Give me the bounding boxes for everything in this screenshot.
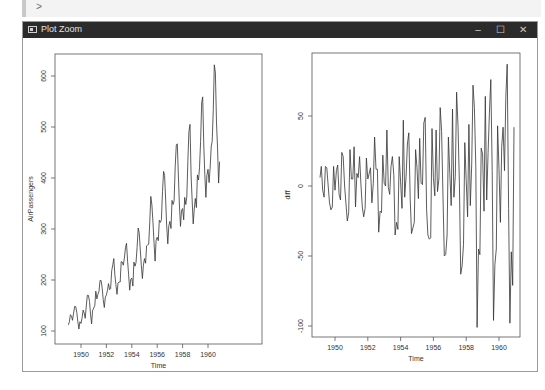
right-y-axis-label: diff <box>284 190 291 199</box>
maximize-button[interactable]: ☐ <box>489 23 511 37</box>
r-console-output: > <box>22 0 541 17</box>
x-tick-label: 1950 <box>327 344 343 351</box>
y-tick-label: 500 <box>40 121 47 133</box>
y-tick-label: 100 <box>40 325 47 337</box>
left-chart: 100200300400500600 195019521954195619581… <box>27 54 262 369</box>
minimize-button[interactable]: – <box>467 23 489 37</box>
y-tick-label: 400 <box>40 172 47 184</box>
x-tick-label: 1950 <box>73 351 89 358</box>
y-tick-label: 300 <box>40 223 47 235</box>
y-tick-label: -100 <box>297 319 304 333</box>
right-x-axis: 195019521954195619581960 <box>327 337 507 351</box>
right-plot-frame <box>312 53 520 337</box>
right-chart: -100-50050 195019521954195619581960 Time… <box>284 53 520 362</box>
left-x-axis: 195019521954195619581960 <box>73 344 216 358</box>
y-tick-label: -50 <box>297 251 304 261</box>
x-tick-label: 1954 <box>124 351 140 358</box>
right-y-axis: -100-50050 <box>297 112 312 333</box>
x-tick-label: 1960 <box>491 344 507 351</box>
right-x-axis-label: Time <box>408 355 423 362</box>
left-y-axis-label: AirPassengers <box>27 176 35 222</box>
x-tick-label: 1958 <box>175 351 191 358</box>
x-tick-label: 1956 <box>149 351 165 358</box>
x-tick-label: 1952 <box>99 351 115 358</box>
window-titlebar[interactable]: Plot Zoom – ☐ ✕ <box>23 22 537 38</box>
left-plot-frame <box>55 54 262 344</box>
left-x-axis-label: Time <box>151 362 166 369</box>
diff-series-line <box>320 64 514 327</box>
x-tick-label: 1952 <box>360 344 376 351</box>
airpassengers-series-line <box>68 65 219 329</box>
left-y-axis: 100200300400500600 <box>40 70 55 337</box>
plot-window-icon <box>28 26 37 33</box>
window-title: Plot Zoom <box>41 24 82 34</box>
y-tick-label: 600 <box>40 70 47 82</box>
x-tick-label: 1954 <box>393 344 409 351</box>
plot-area: 100200300400500600 195019521954195619581… <box>23 38 537 371</box>
close-button[interactable]: ✕ <box>512 23 534 37</box>
console-prompt: > <box>36 2 42 13</box>
x-tick-label: 1956 <box>426 344 442 351</box>
x-tick-label: 1958 <box>458 344 474 351</box>
plot-zoom-window: Plot Zoom – ☐ ✕ 100200300400500600 19501… <box>22 21 538 372</box>
y-tick-label: 50 <box>297 112 304 120</box>
y-tick-label: 200 <box>40 274 47 286</box>
x-tick-label: 1960 <box>200 351 216 358</box>
y-tick-label: 0 <box>297 184 304 188</box>
